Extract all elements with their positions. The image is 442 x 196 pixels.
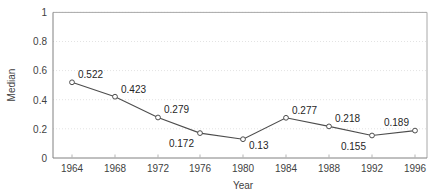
y-tick-label-0-2: 0.2 [33,124,47,135]
data-point-1980 [241,137,246,142]
y-tick-labels: 1 0.8 0.6 0.4 0.2 0 [33,7,47,164]
data-label-1996: 0.189 [384,117,409,128]
x-tick-marks [72,155,415,159]
x-tick-label-1980: 1980 [232,163,255,174]
data-point-1984 [284,115,289,120]
x-tick-label-1992: 1992 [361,163,384,174]
x-tick-label-1964: 1964 [61,163,84,174]
data-label-1972: 0.279 [164,104,189,115]
y-tick-label-1: 1 [41,7,47,18]
data-point-1996 [413,128,418,133]
data-label-1980: 0.13 [249,140,269,151]
gridlines [53,12,427,128]
data-point-1972 [156,115,161,120]
y-tick-label-0: 0 [41,153,47,164]
data-label-1984: 0.277 [292,105,317,116]
x-tick-label-1968: 1968 [104,163,127,174]
data-label-1992: 0.155 [341,141,366,152]
data-point-1988 [327,124,332,129]
data-label-1988: 0.218 [335,113,360,124]
data-point-1992 [370,133,375,138]
data-point-1976 [198,131,203,136]
x-tick-label-1996: 1996 [404,163,427,174]
y-tick-label-0-8: 0.8 [33,36,47,47]
chart-canvas: 1 0.8 0.6 0.4 0.2 0 1964 1968 1972 1976 … [0,0,442,196]
data-point-1964 [70,80,75,85]
y-axis-title: Median [6,69,17,102]
y-tick-label-0-6: 0.6 [33,65,47,76]
median-by-year-line-chart: 1 0.8 0.6 0.4 0.2 0 1964 1968 1972 1976 … [0,0,442,196]
data-label-1976: 0.172 [169,138,194,149]
x-tick-label-1984: 1984 [275,163,298,174]
x-tick-label-1972: 1972 [147,163,170,174]
y-tick-label-0-4: 0.4 [33,95,47,106]
data-point-1968 [113,94,118,99]
x-axis-title: Year [233,180,254,191]
data-label-1968: 0.423 [121,84,146,95]
x-tick-label-1976: 1976 [189,163,212,174]
data-label-1964: 0.522 [78,69,103,80]
x-tick-labels: 1964 1968 1972 1976 1980 1984 1988 1992 … [61,163,427,174]
x-tick-label-1988: 1988 [318,163,341,174]
